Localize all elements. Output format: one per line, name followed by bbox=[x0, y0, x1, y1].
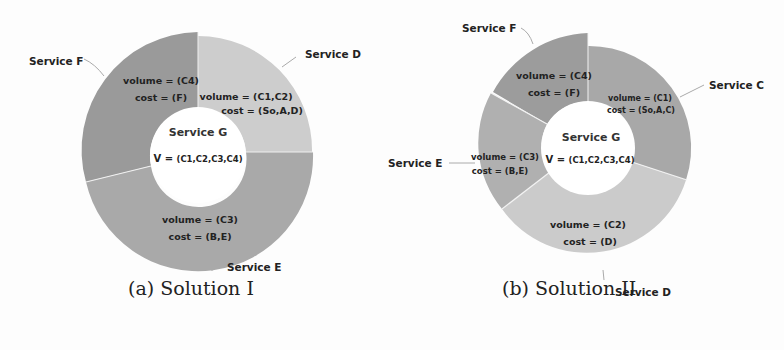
segment-volume-f: volume = (C4) bbox=[123, 75, 199, 86]
segment-cost-d: cost = (So,A,D) bbox=[221, 105, 303, 116]
segment-volume-d: volume = (C1,C2) bbox=[199, 91, 292, 102]
service-label-f: Service F bbox=[462, 22, 516, 34]
service-label-f: Service F bbox=[29, 55, 83, 67]
center-service-title: Service G bbox=[562, 131, 621, 144]
caption-solution-1: (a) Solution I bbox=[128, 277, 254, 299]
segment-cost-f: cost = (F) bbox=[528, 87, 580, 98]
segment-volume-d: volume = (C2) bbox=[550, 219, 626, 230]
center-service-title: Service G bbox=[169, 126, 228, 139]
segment-cost-e: cost = (B,E) bbox=[472, 166, 528, 176]
donut-solution-1: volume = (C4) cost = (F) volume = (C1,C2… bbox=[29, 32, 361, 273]
donut-hole bbox=[541, 101, 635, 195]
segment-volume-e: volume = (C3) bbox=[162, 214, 238, 225]
segment-volume-f: volume = (C4) bbox=[516, 70, 592, 81]
figure-canvas: volume = (C4) cost = (F) volume = (C1,C2… bbox=[0, 0, 784, 350]
service-label-d: Service D bbox=[305, 48, 361, 60]
service-label-e: Service E bbox=[388, 157, 442, 169]
leader-line-f bbox=[521, 28, 533, 44]
center-volume-set: V = (C1,C2,C3,C4) bbox=[545, 154, 634, 165]
caption-solution-2: (b) Solution II bbox=[502, 277, 636, 299]
service-label-e: Service E bbox=[227, 261, 281, 273]
segment-cost-c: cost = (So,A,C) bbox=[607, 106, 675, 115]
donut-solution-2: volume = (C4) cost = (F) volume = (C1) c… bbox=[388, 22, 764, 298]
leader-line-d bbox=[282, 57, 296, 67]
leader-line-f bbox=[84, 59, 104, 76]
segment-cost-f: cost = (F) bbox=[135, 92, 187, 103]
segment-cost-e: cost = (B,E) bbox=[169, 231, 232, 242]
segment-volume-e: volume = (C3) bbox=[471, 152, 539, 162]
segment-volume-c: volume = (C1) bbox=[608, 94, 672, 103]
segment-cost-d: cost = (D) bbox=[563, 236, 617, 247]
service-label-c: Service C bbox=[709, 79, 764, 91]
center-volume-set: V = (C1,C2,C3,C4) bbox=[153, 153, 242, 164]
leader-line-c bbox=[680, 85, 704, 97]
